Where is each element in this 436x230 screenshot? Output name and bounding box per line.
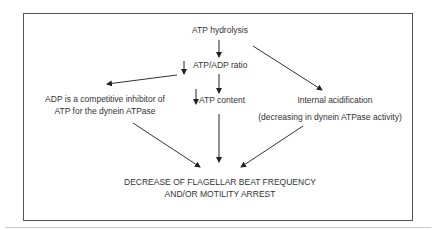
node-adp-inhibitor-line1: ADP is a competitive inhibitor of — [30, 94, 180, 105]
bottom-divider — [5, 227, 431, 228]
node-atp-content: ATP content — [199, 95, 259, 106]
node-adp-inhibitor-line2: ATP for the dynein ATPase — [30, 106, 180, 117]
node-outcome-line1: DECREASE OF FLAGELLAR BEAT FREQUENCY — [120, 177, 320, 188]
arrow-adp-inhibitor-to-outcome — [133, 123, 200, 167]
node-atp-hydrolysis: ATP hydrolysis — [190, 25, 250, 36]
node-atp-adp-ratio: ATP/ADP ratio — [190, 60, 253, 71]
node-outcome-line2: AND/OR MOTILITY ARREST — [120, 189, 320, 200]
node-dynein-activity-note: (decreasing in dynein ATPase activity) — [250, 112, 410, 123]
node-internal-acidification: Internal acidification — [285, 95, 385, 106]
arrow-dynein-to-outcome — [241, 126, 303, 167]
arrow-ratio-to-adp-inhibitor — [107, 75, 177, 84]
arrow-hydrolysis-to-acidification — [253, 46, 322, 90]
